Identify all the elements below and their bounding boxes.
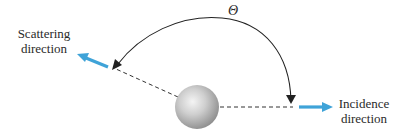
- scattering-label-line1: Scattering: [12, 26, 76, 41]
- incidence-direction-arrow: [299, 102, 333, 112]
- scattering-direction-arrow: [77, 53, 108, 67]
- incidence-direction-label: Incidence direction: [336, 96, 392, 126]
- scattering-angle-label: Θ: [228, 3, 238, 19]
- scattering-direction-label: Scattering direction: [12, 26, 76, 56]
- incidence-label-line1: Incidence: [336, 96, 392, 111]
- incidence-label-line2: direction: [336, 111, 392, 126]
- particle-sphere: [175, 85, 219, 129]
- scattering-dashed-line: [116, 69, 178, 97]
- scattering-label-line2: direction: [12, 41, 76, 56]
- scattering-diagram: Θ Scattering direction Incidence directi…: [0, 0, 409, 132]
- arc-arrowhead-incidence-icon: [286, 95, 296, 104]
